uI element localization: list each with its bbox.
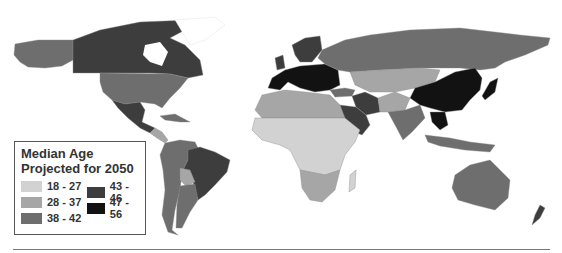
region-madagascar xyxy=(349,170,356,192)
region-south-asia-west xyxy=(378,92,410,112)
legend-swatch xyxy=(21,181,42,192)
legend-item-38-42: 38 - 42 xyxy=(21,212,81,224)
legend-label: 38 - 42 xyxy=(47,212,81,224)
region-australia xyxy=(452,160,510,210)
legend-item-28-37: 28 - 37 xyxy=(21,196,81,208)
region-alaska xyxy=(14,40,73,68)
legend-swatch xyxy=(87,203,105,214)
map-legend: Median Age Projected for 2050 18 - 27 28… xyxy=(14,141,146,235)
bottom-divider xyxy=(13,249,550,250)
region-argentina xyxy=(176,184,198,228)
legend-items: 18 - 27 28 - 37 38 - 42 43 - 46 47 - 56 xyxy=(21,180,139,228)
legend-label: 18 - 27 xyxy=(47,180,81,192)
region-sub-saharan xyxy=(252,118,360,175)
region-central-america xyxy=(150,128,168,143)
region-uk xyxy=(275,55,285,70)
legend-label: 28 - 37 xyxy=(47,196,81,208)
region-new-zealand xyxy=(532,205,545,225)
region-caribbean xyxy=(160,114,190,122)
region-mexico xyxy=(112,100,155,133)
legend-swatch xyxy=(21,197,42,208)
legend-item-47-56: 47 - 56 xyxy=(87,196,139,220)
region-thailand xyxy=(430,112,448,130)
region-scandinavia xyxy=(292,36,322,62)
region-southern-africa xyxy=(300,170,340,202)
legend-swatch xyxy=(21,213,42,224)
legend-label: 47 - 56 xyxy=(110,196,139,220)
region-indonesia xyxy=(425,135,495,152)
region-japan xyxy=(482,78,498,100)
legend-title: Median Age Projected for 2050 xyxy=(21,146,146,176)
region-north-africa xyxy=(255,90,345,118)
region-russia xyxy=(318,28,550,72)
region-greenland xyxy=(175,17,225,45)
region-usa xyxy=(100,73,188,108)
region-turkey xyxy=(330,88,355,97)
legend-item-18-27: 18 - 27 xyxy=(21,180,81,192)
